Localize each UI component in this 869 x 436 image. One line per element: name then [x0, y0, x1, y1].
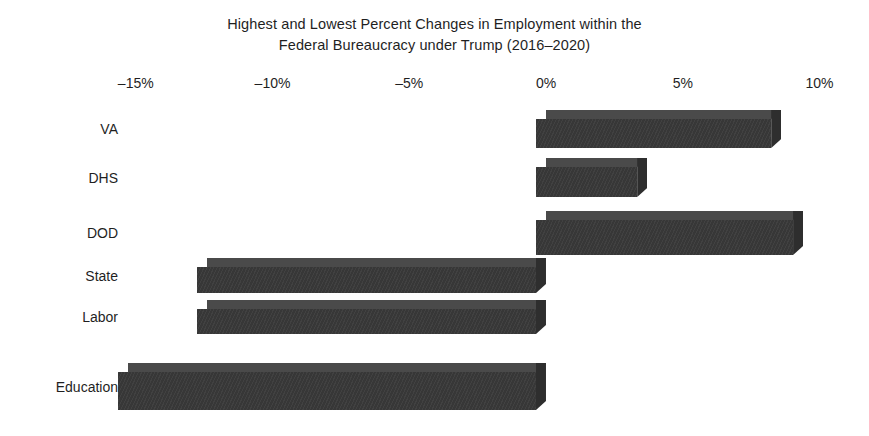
bar-front-face [197, 309, 536, 334]
bar-side-face [536, 300, 546, 334]
bar-va[interactable] [536, 110, 781, 148]
bar-side-face [793, 211, 803, 255]
bar-top-face [546, 158, 647, 167]
bar-top-face [207, 258, 546, 267]
bar-education[interactable] [118, 363, 546, 410]
bar-state[interactable] [197, 258, 546, 293]
bar-front-face [536, 220, 793, 255]
bar-chart: Highest and Lowest Percent Changes in Em… [0, 0, 869, 436]
bar-side-face [637, 158, 647, 197]
plot-area [0, 0, 869, 436]
bar-front-face [536, 119, 771, 148]
bar-front-face [536, 167, 637, 197]
bar-top-face [207, 300, 546, 309]
bar-side-face [536, 258, 546, 293]
bar-top-face [546, 211, 803, 220]
bar-front-face [197, 267, 536, 293]
bar-top-face [546, 110, 781, 119]
bar-top-face [128, 363, 546, 372]
bar-dod[interactable] [536, 211, 803, 255]
bar-dhs[interactable] [536, 158, 647, 197]
bar-labor[interactable] [197, 300, 546, 334]
bar-front-face [118, 372, 536, 410]
bar-side-face [536, 363, 546, 410]
bar-side-face [771, 110, 781, 148]
